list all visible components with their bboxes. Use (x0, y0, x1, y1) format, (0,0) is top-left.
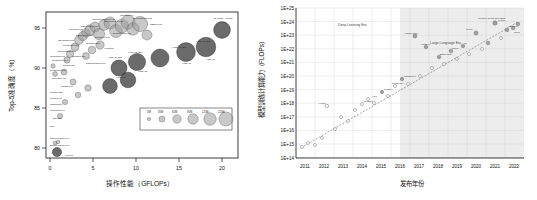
right-xtick-2021: 2021 (490, 164, 501, 169)
left-label-squeezenet11: SqueezeNet-v1.1 (50, 137, 70, 140)
left-xtick-5: 5 (92, 165, 95, 171)
right-y-axis-title: 模型训练计算能力（FLOPs） (257, 38, 266, 118)
annot-transformer: Transformer (404, 75, 416, 77)
left-label-vgg11bn: VGG-11_BN (108, 56, 122, 59)
right-xtick-2012: 2012 (319, 164, 330, 169)
annot-bert-large: BERT-Large (440, 53, 453, 55)
left-xtick-10: 10 (133, 165, 139, 171)
left-label-fbresnet152: FBResNet-152 (76, 34, 93, 37)
annot-alphazero: AlphaZero (420, 43, 431, 45)
left-xtick-15: 15 (176, 165, 182, 171)
right-ytick-1e14: 1E+14 (281, 156, 295, 161)
left-label-nasnet: NASNet-A-Large (214, 17, 233, 20)
annot-palm: PaLM (514, 31, 520, 33)
annot-googlenet: GoogLeNet (392, 82, 404, 84)
right-ytick-1e22: 1E+22 (281, 47, 295, 52)
left-x-axis-title: 操作性能（GFLOPs） (106, 179, 174, 188)
left-label-inceptionv2: Inception-v2 (52, 77, 66, 80)
right-x-axis-title: 发布年份 (400, 179, 425, 188)
left-label-bnnin: BN-NIN (53, 117, 62, 120)
right-ytick-1e15: 1E+15 (281, 142, 295, 147)
annot-gpt3: GPT-3 (466, 28, 473, 30)
left-label-resnet18: ResNet-18 (50, 97, 63, 100)
right-xtick-2019: 2019 (452, 164, 463, 169)
legend-size-125m: 125M (202, 110, 209, 114)
left-label-mobilenetv2: MobileNet-v2 (50, 55, 65, 58)
right-xtick-2022: 2022 (509, 164, 520, 169)
left-label-densenet169: DenseNet-169 (52, 59, 69, 62)
right-ytick-1e18: 1E+18 (281, 101, 295, 106)
left-ytick-90: 90 (34, 65, 40, 71)
left-label-squeezenet10: SqueezeNet-v1.0 (50, 144, 70, 147)
left-label-seresnet50: SE-ResNet-50 (58, 39, 75, 42)
left-label-dpn68: DualPathNet-68 (58, 50, 76, 53)
right-ytick-1e25: 1E+25 (281, 6, 295, 11)
left-ytick-85: 85 (34, 105, 40, 111)
left-label-vgg13: VGG-13 (138, 70, 148, 73)
left-y-axis-title: Top-5准确度（%） (7, 55, 16, 112)
right-ytick-1e21: 1E+21 (281, 60, 295, 65)
annot-alphago-zero: AlphaGo Zero (404, 32, 418, 34)
left-label-vgg11: VGG-11 (116, 76, 126, 79)
right-chart-svg: 1E+25 1E+24 1E+23 1E+22 1E+21 1E+20 1E+1… (252, 0, 537, 200)
left-label-resnet152: ResNet-152 (86, 42, 100, 45)
left-label-resnext101: ResNeXt-101 (95, 36, 111, 39)
left-label-mobilenetv1: MobileNet-v1 (50, 109, 65, 112)
left-ytick-80: 80 (34, 145, 40, 151)
annot-resnet: ResNet (384, 88, 392, 90)
annot-chinchilla: Chinchilla (508, 25, 518, 27)
right-ytick-1e19: 1E+19 (281, 88, 295, 93)
left-label-densenet201: DenseNet-201 (63, 44, 80, 47)
left-label-vgg13bn: VGG-13_BN (128, 51, 142, 54)
left-label-seresnext101: SE-ResNeXt-101 (104, 20, 124, 23)
left-chart-svg: 95 90 85 80 0 5 10 15 20 Top-5准确度（%） 操作性… (0, 0, 250, 200)
legend-size-5m: 5M (147, 110, 151, 114)
left-xtick-20: 20 (219, 165, 225, 171)
right-xtick-2013: 2013 (338, 164, 349, 169)
right-xtick-2015: 2015 (376, 164, 387, 169)
right-y-axis: 1E+25 1E+24 1E+23 1E+22 1E+21 1E+20 1E+1… (281, 6, 295, 161)
right-xtick-2018: 2018 (433, 164, 444, 169)
left-y-axis: 95 90 85 80 (34, 25, 46, 151)
right-ytick-1e16: 1E+16 (281, 128, 295, 133)
left-label-cafferesnet101: CaffeResNet-101 (86, 62, 106, 65)
right-xtick-2011: 2011 (300, 164, 310, 169)
annot-large-language-era: Large Language Era (430, 41, 461, 45)
left-label-vgg16: VGG-16 (182, 62, 192, 65)
left-label-resnet101: ResNet-101 (72, 55, 86, 58)
left-label-xception: Xception (104, 47, 114, 50)
left-label-vgg19: VGG-19 (206, 58, 216, 61)
legend-size-95m: 95M (187, 110, 192, 114)
left-chart-panel: 95 90 85 80 0 5 10 15 20 Top-5准确度（%） 操作性… (0, 0, 250, 200)
annot-gpt2: GPT-2 (452, 47, 459, 49)
right-xtick-2014: 2014 (357, 164, 368, 169)
right-ytick-1e17: 1E+17 (281, 115, 295, 120)
annot-gopher: Gopher (498, 19, 506, 21)
left-label-densenet121: DenseNet-121 (50, 69, 67, 72)
annot-deep-learning-era: Deep Learning Era (338, 23, 367, 27)
left-label-nin: NIN (50, 125, 55, 128)
left-ytick-95: 95 (34, 25, 40, 31)
left-label-googlenet: GoogLeNet (50, 91, 63, 94)
right-ytick-1e23: 1E+23 (281, 33, 295, 38)
right-ytick-1e20: 1E+20 (281, 74, 295, 79)
left-label-resnet50: ResNet-50 (63, 64, 76, 67)
annot-alexnet: AlexNet (318, 102, 326, 104)
legend-size-155m: 155M (218, 110, 225, 114)
left-label-shufflenet: ShuffleNet (50, 103, 62, 106)
legend-size-35m: 35M (158, 110, 163, 114)
right-x-axis: 2011 2012 2013 2014 2015 2016 2017 2018 … (300, 164, 519, 169)
left-label-vgg16bn: VGG-16_BN (172, 46, 186, 49)
right-xtick-2016: 2016 (395, 164, 406, 169)
right-chart-panel: 1E+25 1E+24 1E+23 1E+22 1E+21 1E+20 1E+1… (252, 0, 537, 200)
left-label-resnet34: ResNet-34 (61, 85, 74, 88)
right-xtick-2017: 2017 (414, 164, 425, 169)
right-xtick-2020: 2020 (471, 164, 482, 169)
left-label-dpn98: DualPathNet-98 (113, 32, 131, 35)
left-label-alexnet: AlexNet (64, 154, 73, 157)
annot-seq2seq: Seq2Seq (364, 100, 374, 102)
left-label-seresnet101: SE-ResNet-101 (81, 25, 99, 28)
legend-size-65m: 65M (172, 110, 177, 114)
left-label-vgg19bn: VGG-19_BN (196, 40, 210, 43)
left-label-senet154: SENet-154 (150, 23, 163, 26)
